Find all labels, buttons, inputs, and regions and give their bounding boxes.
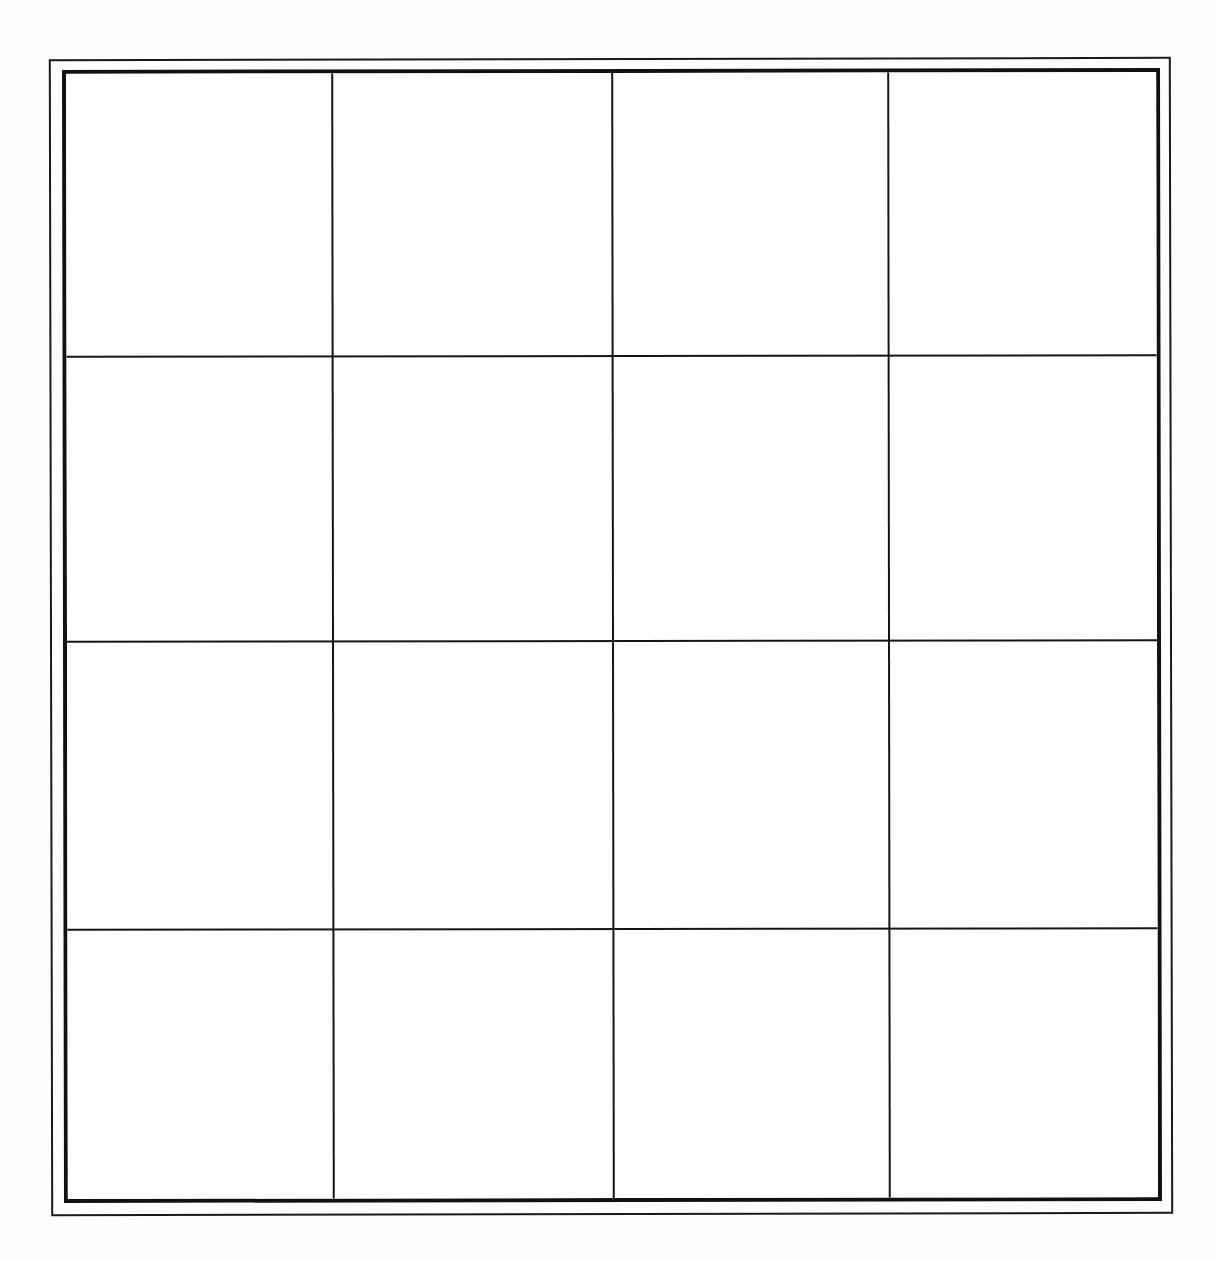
grid-cell-r4c1[interactable] <box>67 928 332 1198</box>
grid-cell-r4c4[interactable] <box>888 927 1157 1197</box>
grid-cell-r1c4[interactable] <box>887 72 1156 354</box>
grid-cell-r1c1[interactable] <box>66 73 331 355</box>
grid-cell-r2c2[interactable] <box>332 355 612 640</box>
grid-cell-r3c1[interactable] <box>67 640 332 928</box>
grid-cell-r3c3[interactable] <box>612 640 888 928</box>
scanned-page <box>0 0 1217 1261</box>
grid-table[interactable] <box>66 72 1158 1199</box>
grid-cell-r4c3[interactable] <box>612 928 888 1198</box>
grid-cell-r2c1[interactable] <box>67 355 332 640</box>
grid-cell-r2c3[interactable] <box>612 355 888 640</box>
grid-cell-r4c2[interactable] <box>332 928 612 1198</box>
grid-cell-r3c2[interactable] <box>332 640 612 928</box>
grid-cell-r1c3[interactable] <box>611 73 887 355</box>
grid-cell-r1c2[interactable] <box>331 73 611 355</box>
grid-cell-r2c4[interactable] <box>888 354 1157 639</box>
grid-cell-r3c4[interactable] <box>888 639 1157 927</box>
